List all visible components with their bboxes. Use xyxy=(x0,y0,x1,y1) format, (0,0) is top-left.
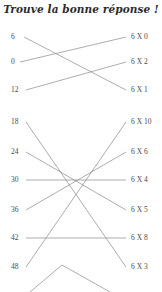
connection-line[interactable] xyxy=(26,122,126,267)
product-label[interactable]: 48 xyxy=(11,263,19,271)
multiplication-label[interactable]: 6 X 1 xyxy=(131,86,148,94)
multiplication-label[interactable]: 6 X 0 xyxy=(131,33,148,41)
connection-line[interactable] xyxy=(24,37,126,90)
multiplication-label[interactable]: 6 X 4 xyxy=(131,176,148,184)
multiplication-label[interactable]: 6 X 6 xyxy=(131,148,148,156)
connection-line[interactable] xyxy=(62,265,110,292)
connection-lines-layer xyxy=(0,0,162,292)
connection-line[interactable] xyxy=(26,152,126,210)
product-label[interactable]: 12 xyxy=(11,86,19,94)
connection-line[interactable] xyxy=(30,265,62,292)
multiplication-label[interactable]: 6 X 10 xyxy=(131,118,151,126)
connection-line[interactable] xyxy=(20,37,126,62)
product-label[interactable]: 30 xyxy=(11,176,19,184)
worksheet-page: Trouve la bonne réponse ! 60126 X 06 X 2… xyxy=(0,0,162,292)
product-label[interactable]: 6 xyxy=(11,33,15,41)
connection-line[interactable] xyxy=(26,122,126,267)
connection-line[interactable] xyxy=(26,62,126,90)
product-label[interactable]: 0 xyxy=(11,58,15,66)
multiplication-label[interactable]: 6 X 3 xyxy=(131,263,148,271)
product-label[interactable]: 42 xyxy=(11,234,19,242)
multiplication-label[interactable]: 6 X 8 xyxy=(131,234,148,242)
page-title: Trouve la bonne réponse ! xyxy=(0,3,162,15)
product-label[interactable]: 24 xyxy=(11,148,19,156)
multiplication-label[interactable]: 6 X 2 xyxy=(131,58,148,66)
product-label[interactable]: 18 xyxy=(11,118,19,126)
connection-line[interactable] xyxy=(26,152,126,210)
multiplication-label[interactable]: 6 X 5 xyxy=(131,206,148,214)
product-label[interactable]: 36 xyxy=(11,206,19,214)
